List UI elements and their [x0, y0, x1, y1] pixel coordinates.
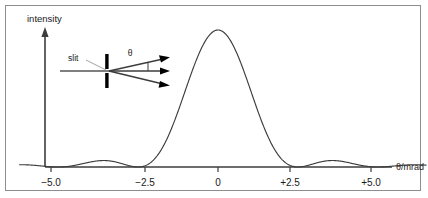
- slit-label: slit: [68, 53, 79, 63]
- x-axis-title: θ/mrad: [396, 162, 424, 172]
- single-slit-schematic: slit θ: [60, 48, 170, 88]
- y-axis-arrowhead: [41, 27, 48, 37]
- x-tick-label-0: −5.0: [41, 177, 61, 188]
- intensity-curve: [20, 30, 426, 167]
- diffraction-figure: intensity θ/mrad −5.0 −2.5 0 +2.5 +5.0 s…: [0, 0, 428, 198]
- theta-label: θ: [128, 48, 133, 58]
- slit-lower-bar: [105, 73, 108, 88]
- diffracted-rays: [109, 59, 163, 84]
- x-tick-label-4: +5.0: [361, 177, 381, 188]
- y-axis-title: intensity: [27, 13, 62, 24]
- x-tick-label-2: 0: [215, 177, 221, 188]
- arrowhead-straight: [160, 68, 170, 75]
- diffracted-ray-down: [109, 71, 163, 84]
- slit-leader-line: [86, 60, 106, 70]
- arrowhead-up: [159, 55, 170, 62]
- arrowhead-down: [159, 81, 170, 88]
- slit-upper-bar: [105, 54, 108, 69]
- x-tick-labels: −5.0 −2.5 0 +2.5 +5.0: [41, 177, 381, 188]
- x-axis-ticks: [51, 167, 371, 172]
- axes-group: [41, 27, 392, 167]
- diffracted-ray-up: [109, 59, 163, 71]
- x-tick-label-1: −2.5: [135, 177, 155, 188]
- x-tick-label-3: +2.5: [280, 177, 300, 188]
- diffraction-plot: intensity θ/mrad −5.0 −2.5 0 +2.5 +5.0 s…: [0, 0, 428, 198]
